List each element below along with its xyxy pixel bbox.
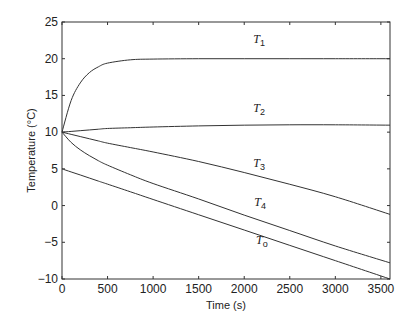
series-label-t1: T1	[253, 32, 265, 48]
series-label-t3: T3	[253, 156, 265, 172]
x-tick-label: 0	[59, 282, 66, 296]
line-chart: 0500100015002000250030003500−10−50510152…	[0, 0, 412, 324]
x-axis-label: Time (s)	[206, 299, 246, 311]
y-tick-label: 10	[45, 125, 59, 139]
y-tick-label: −5	[44, 235, 58, 249]
x-tick-label: 500	[98, 282, 118, 296]
y-tick-label: 0	[51, 199, 58, 213]
y-tick-label: 25	[45, 15, 59, 29]
x-tick-label: 1500	[185, 282, 212, 296]
series-line-t1	[62, 59, 390, 132]
x-tick-label: 3000	[322, 282, 349, 296]
series-label-t2: T2	[253, 101, 265, 117]
x-tick-label: 2500	[276, 282, 303, 296]
series-label-t4: T4	[254, 195, 266, 211]
series-label-to: To	[256, 233, 268, 249]
x-tick-label: 2000	[231, 282, 258, 296]
series-line-t2	[62, 125, 390, 132]
series-line-to	[62, 169, 390, 279]
series-line-t3	[62, 132, 390, 214]
x-tick-label: 3500	[368, 282, 395, 296]
y-tick-label: 20	[45, 52, 59, 66]
y-tick-label: −10	[38, 272, 59, 286]
y-tick-label: 5	[51, 162, 58, 176]
x-tick-label: 1000	[140, 282, 167, 296]
y-tick-label: 15	[45, 88, 59, 102]
y-axis-label: Temperature (°C)	[25, 108, 37, 192]
series-line-t4	[62, 132, 390, 263]
plot-area	[62, 22, 390, 279]
